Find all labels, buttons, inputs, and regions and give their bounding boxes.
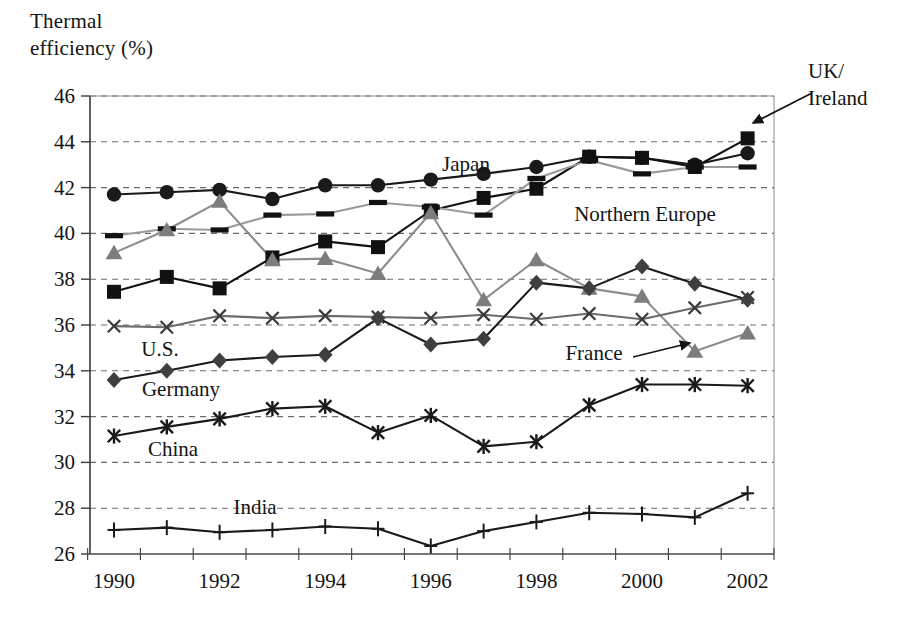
marker-uk-ireland [741, 131, 755, 145]
marker-germany [265, 349, 280, 365]
marker-uk-ireland [213, 281, 227, 295]
marker-uk-ireland [107, 285, 121, 299]
annotation-label-china: China [148, 437, 199, 461]
marker-japan [107, 187, 121, 201]
marker-japan [265, 192, 279, 206]
marker-uk-ireland [160, 270, 174, 284]
marker-uk-ireland [477, 191, 491, 205]
y-tick-label: 40 [54, 221, 75, 245]
marker-northern-europe [739, 164, 757, 169]
marker-france [739, 325, 756, 339]
annotation-line: Ireland [808, 86, 868, 110]
x-tick-labels: 1990199219941996199820002002 [93, 569, 769, 593]
marker-uk-ireland [529, 182, 543, 196]
marker-northern-europe [580, 158, 598, 163]
marker-germany [212, 352, 227, 368]
x-tick-label: 2000 [621, 569, 663, 593]
annotation-line: Germany [142, 377, 221, 401]
annotation-label-germany: Germany [142, 377, 221, 401]
thermal-efficiency-line-chart: 2628303234363840424446 19901992199419961… [0, 0, 900, 628]
marker-japan [529, 160, 543, 174]
y-tick-label: 26 [54, 542, 75, 566]
marker-germany [687, 276, 702, 292]
y-tick-label: 36 [54, 313, 75, 337]
annotation-label-northern-europe: Northern Europe [574, 202, 716, 226]
y-tick-labels: 2628303234363840424446 [54, 84, 76, 566]
marker-northern-europe [263, 212, 281, 217]
marker-northern-europe [475, 212, 493, 217]
series-markers [105, 131, 757, 553]
marker-france [211, 193, 228, 207]
annotation-label-japan: Japan [442, 152, 490, 176]
x-tick-label: 1990 [93, 569, 135, 593]
annotation-label-uk-ireland: UK/Ireland [808, 59, 868, 110]
y-tick-label: 30 [54, 450, 75, 474]
marker-germany [635, 259, 650, 275]
annotation-line: Japan [442, 152, 490, 176]
marker-northern-europe [316, 211, 334, 216]
chart-page: Thermal efficiency (%) 26283032343638404… [0, 0, 900, 628]
annotation-arrow-uk-ireland [753, 93, 812, 123]
marker-france [106, 245, 123, 259]
annotation-line: France [565, 341, 622, 365]
marker-germany [423, 336, 438, 352]
marker-uk-ireland [318, 234, 332, 248]
annotation-label-india: India [233, 495, 277, 519]
y-tick-label: 32 [54, 405, 75, 429]
y-tick-label: 34 [54, 359, 76, 383]
annotation-arrow-france [633, 343, 690, 357]
marker-japan [160, 185, 174, 199]
marker-japan [318, 178, 332, 192]
x-tick-label: 1994 [304, 569, 347, 593]
marker-northern-europe [105, 233, 123, 238]
marker-uk-ireland [371, 240, 385, 254]
marker-germany [318, 347, 333, 363]
x-tick-label: 1992 [199, 569, 241, 593]
y-tick-label: 44 [54, 130, 76, 154]
series-line-india [114, 493, 748, 546]
y-tick-label: 46 [54, 84, 75, 108]
annotation-line: India [233, 495, 277, 519]
marker-germany [740, 292, 755, 308]
series-line-germany [114, 267, 748, 380]
marker-japan [740, 146, 754, 160]
annotation-line: China [148, 437, 199, 461]
annotation-line: Northern Europe [574, 202, 716, 226]
x-tick-label: 2002 [727, 569, 769, 593]
marker-uk-ireland [635, 151, 649, 165]
marker-northern-europe [633, 171, 651, 176]
marker-france [475, 292, 492, 306]
marker-france [528, 252, 545, 266]
marker-northern-europe [527, 176, 545, 181]
marker-japan [424, 172, 438, 186]
annotation-line: UK/ [808, 59, 844, 83]
marker-japan [371, 178, 385, 192]
x-tick-label: 1996 [410, 569, 452, 593]
marker-northern-europe [686, 164, 704, 169]
y-tick-label: 42 [54, 176, 75, 200]
marker-germany [107, 372, 122, 388]
axis-lines [81, 96, 774, 560]
y-tick-label: 28 [54, 496, 75, 520]
marker-northern-europe [369, 200, 387, 205]
annotation-label-us: U.S. [141, 337, 178, 361]
annotation-line: U.S. [141, 337, 178, 361]
annotations: JapanNorthern EuropeUK/IrelandFranceU.S.… [141, 59, 868, 519]
series-line-u-s- [114, 298, 748, 328]
x-tick-label: 1998 [515, 569, 557, 593]
marker-northern-europe [211, 227, 229, 232]
annotation-label-france: France [565, 341, 622, 365]
y-tick-label: 38 [54, 267, 75, 291]
